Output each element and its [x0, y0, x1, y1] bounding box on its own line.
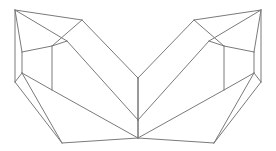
edge-right-apex-to-upper-right	[254, 10, 261, 52]
edge-left-top-ridge-to-upper-right	[52, 20, 82, 46]
edge-right-outer-to-lower-right	[254, 73, 261, 82]
edge-right-lower-right-to-bottom-point	[214, 73, 254, 143]
edge-left-lower-left-to-bottom-point	[22, 73, 62, 143]
edge-right-top-ridge-to-upper-left	[194, 20, 224, 46]
edge-left-apex-to-top-ridge	[15, 10, 82, 20]
edge-left-top-ridge-to-notch	[82, 20, 138, 78]
edge-right-upper-quad-top	[224, 46, 254, 52]
edge-left-apex-to-inner-ridge	[15, 10, 67, 41]
edge-right-inner-ridge-to-notch-mid	[138, 41, 209, 120]
edge-right-quad-left-to-center-bottom	[138, 90, 224, 138]
edge-left-bottom-point-to-center-bottom	[62, 138, 138, 143]
edge-left-quad-right-to-center-bottom	[52, 90, 138, 138]
edge-right-top-ridge-to-notch	[138, 20, 194, 78]
figure-canvas	[0, 0, 276, 151]
edge-left-outer-to-lower-left	[15, 73, 22, 82]
edge-right-apex-to-top-ridge	[194, 10, 261, 20]
edge-group	[15, 10, 261, 143]
wireframe-polyhedron-drawing	[0, 0, 276, 151]
edge-left-inner-ridge-to-notch-mid	[67, 41, 138, 120]
edge-right-apex-to-inner-ridge	[209, 10, 261, 41]
edge-left-upper-quad-top	[22, 46, 52, 52]
edge-right-bottom-point-to-center-bottom	[138, 138, 214, 143]
edge-left-apex-to-upper-left	[15, 10, 22, 52]
